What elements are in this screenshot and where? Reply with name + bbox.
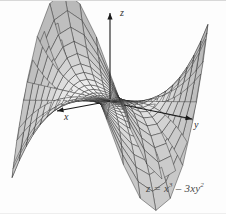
- equation-term2: xy: [190, 182, 200, 194]
- equation-eq: =: [150, 182, 164, 194]
- axis-z-arrowhead: [107, 13, 112, 20]
- axis-label-x: x: [64, 111, 68, 122]
- equation-term2-exponent: 2: [200, 181, 204, 189]
- axis-label-z: z: [120, 7, 124, 18]
- surface-plot-figure: z x y z = x3 – 3xy2: [0, 0, 226, 214]
- axis-label-y: y: [194, 119, 198, 130]
- equation-minus: – 3: [173, 182, 190, 194]
- equation-label: z = x3 – 3xy2: [146, 181, 204, 194]
